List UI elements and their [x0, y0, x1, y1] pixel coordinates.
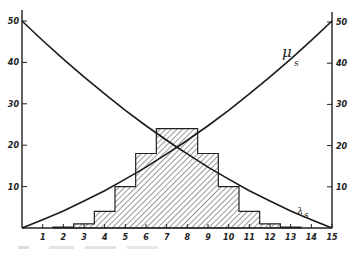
x-tick-label: 11 [244, 233, 255, 242]
x-tick-label: 12 [264, 233, 276, 242]
mu-s-label: μ [282, 43, 292, 61]
x-tick-label: 7 [164, 233, 170, 242]
lambda-s-label: λ [296, 205, 303, 216]
histogram-bars [53, 129, 301, 228]
y-tick-label-right: 40 [335, 59, 348, 68]
x-tick-label: 4 [101, 233, 108, 242]
x-tick-label: 10 [223, 233, 235, 242]
caption-cutoff [18, 246, 158, 249]
y-tick-label-right: 10 [336, 183, 348, 192]
x-tick-label: 6 [143, 233, 149, 242]
x-tick-label: 15 [326, 233, 338, 242]
y-tick-label-left: 40 [7, 58, 20, 67]
svg-text:s: s [294, 58, 299, 68]
histogram-outline [53, 129, 301, 228]
y-tick-label-left: 20 [8, 141, 20, 150]
x-tick-label: 13 [285, 233, 297, 242]
x-tick-label: 1 [40, 233, 46, 242]
y-tick-label-left: 30 [8, 100, 20, 109]
svg-text:s: s [304, 210, 309, 220]
y-tick-label-right: 30 [336, 100, 348, 109]
x-tick-label: 9 [205, 233, 211, 242]
x-tick-label: 3 [81, 233, 87, 242]
x-tick-label: 2 [61, 233, 67, 242]
chart: 1020304050102030405012345678910111213141… [0, 0, 357, 253]
y-tick-label-left: 50 [8, 17, 20, 26]
x-tick-label: 5 [123, 233, 129, 242]
y-tick-label-right: 50 [336, 18, 348, 27]
y-tick-label-left: 10 [8, 183, 20, 192]
x-tick-label: 14 [306, 233, 318, 242]
x-tick-label: 8 [185, 233, 191, 242]
y-tick-label-right: 20 [336, 142, 348, 151]
